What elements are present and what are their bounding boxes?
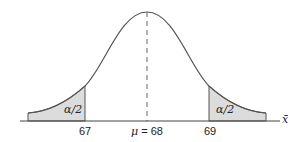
left-tail-label: α/2 (64, 103, 82, 116)
tick-label-69: 69 (204, 125, 216, 137)
mean-value: = 68 (138, 125, 163, 137)
axis-label-xbar: x̄ (282, 113, 288, 126)
tick-label-67: 67 (79, 125, 91, 137)
tick-label-mean: μ = 68 (131, 125, 163, 138)
right-tail-label: α/2 (216, 103, 234, 116)
normal-distribution-diagram (0, 0, 300, 142)
